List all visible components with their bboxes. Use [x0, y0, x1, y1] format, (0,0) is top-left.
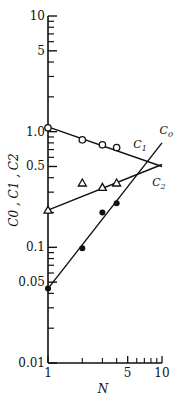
x-tick-label: 5 — [124, 366, 132, 380]
y-axis-title: C0 , C1 , C2 — [7, 153, 21, 226]
series-label-c1: C1 — [133, 138, 147, 153]
y-tick-label: 1.0 — [26, 125, 45, 139]
y-tick-label: 0.05 — [18, 275, 45, 289]
point-c0 — [99, 210, 105, 216]
ticks: 0.010.050.10.51.05101510 — [18, 9, 169, 380]
data-points — [44, 125, 121, 292]
x-tick-label: 1 — [44, 366, 52, 380]
y-tick-label: 0.01 — [18, 356, 45, 370]
point-c0 — [114, 200, 120, 206]
chart: 0.010.050.10.51.05101510 C0C1C2 N C0 , C… — [0, 0, 178, 408]
point-c1 — [79, 137, 85, 143]
point-c2 — [113, 179, 121, 186]
point-c0 — [45, 286, 51, 292]
point-c0 — [79, 245, 85, 251]
point-c2 — [78, 179, 86, 186]
series-label-c2: C2 — [152, 176, 166, 191]
labels: C0C1C2 — [133, 124, 173, 191]
point-c1 — [99, 142, 105, 148]
x-axis-title: N — [97, 382, 109, 396]
point-c1 — [113, 144, 119, 150]
fit-line-c0 — [48, 143, 162, 289]
y-tick-label: 10 — [30, 9, 45, 23]
y-tick-label: 0.5 — [26, 159, 45, 173]
x-tick-label: 10 — [154, 366, 169, 380]
y-tick-label: 0.1 — [26, 240, 45, 254]
series-label-c0: C0 — [159, 124, 173, 139]
y-tick-label: 5 — [37, 44, 45, 58]
point-c1 — [45, 125, 51, 131]
